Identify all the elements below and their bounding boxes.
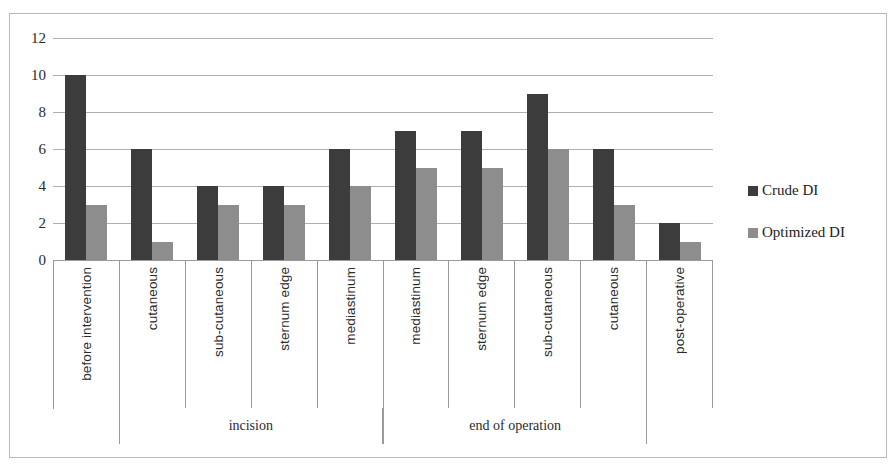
bar-groups <box>53 38 713 260</box>
y-axis-tick-label: 8 <box>39 104 47 121</box>
legend-item: Optimized DI <box>748 224 845 241</box>
bar <box>131 149 152 260</box>
category-label-cell: cutaneous <box>581 261 647 408</box>
bar-group <box>185 38 251 260</box>
bar <box>527 94 548 261</box>
category-label-cell: sub-cutaneous <box>186 261 252 408</box>
category-label-cell: before intervention <box>53 261 120 409</box>
bar <box>548 149 569 260</box>
bar-group <box>647 38 713 260</box>
category-label: sub-cutaneous <box>540 267 555 357</box>
y-axis-tick-label: 2 <box>39 215 47 232</box>
bar <box>461 131 482 261</box>
y-axis-tick-label: 10 <box>31 67 46 84</box>
bar <box>197 186 218 260</box>
bar-group <box>581 38 647 260</box>
bar <box>416 168 437 261</box>
bar <box>263 186 284 260</box>
category-label-cell: sternum edge <box>252 261 318 408</box>
bar <box>152 242 173 261</box>
bar <box>659 223 680 260</box>
category-label: mediastinum <box>408 267 423 345</box>
category-label: cutaneous <box>606 267 621 330</box>
bar-group <box>119 38 185 260</box>
bar <box>350 186 371 260</box>
bar <box>218 205 239 261</box>
category-label-cell: sub-cutaneous <box>515 261 581 408</box>
bar <box>65 75 86 260</box>
category-label: mediastinum <box>343 267 358 345</box>
bar <box>395 131 416 261</box>
bar-group <box>449 38 515 260</box>
bar-group <box>383 38 449 260</box>
category-label-cell: mediastinum <box>318 261 384 408</box>
chart-legend: Crude DIOptimized DI <box>748 182 845 241</box>
category-label-cell: mediastinum <box>384 261 450 408</box>
y-axis-tick-label: 6 <box>39 141 47 158</box>
category-label-cell: sternum edge <box>449 261 515 408</box>
group-spacer <box>647 408 713 444</box>
group-spacer <box>53 408 119 444</box>
bar-group <box>251 38 317 260</box>
legend-swatch-icon <box>748 228 758 238</box>
group-label: incision <box>119 408 383 444</box>
legend-label: Crude DI <box>762 182 818 199</box>
category-group-labels: incisionend of operation <box>53 408 713 444</box>
bar-group <box>515 38 581 260</box>
category-label: post-operative <box>672 267 687 354</box>
category-label: sternum edge <box>277 267 292 351</box>
bar-group <box>53 38 119 260</box>
bar <box>329 149 350 260</box>
category-labels: before interventioncutaneoussub-cutaneou… <box>53 260 713 408</box>
category-label: sub-cutaneous <box>211 267 226 357</box>
bar <box>593 149 614 260</box>
y-axis-tick-label: 4 <box>39 178 47 195</box>
plot-area: 024681012 <box>53 38 713 260</box>
y-axis-tick-label: 0 <box>39 252 47 269</box>
legend-label: Optimized DI <box>762 224 845 241</box>
category-label-cell: cutaneous <box>120 261 186 408</box>
bar-group <box>317 38 383 260</box>
chart-frame: 024681012 before interventioncutaneoussu… <box>9 13 887 458</box>
group-label: end of operation <box>383 408 647 444</box>
y-axis-tick-label: 12 <box>31 30 46 47</box>
category-label-cell: post-operative <box>647 261 713 408</box>
bar <box>614 205 635 261</box>
legend-swatch-icon <box>748 186 758 196</box>
bar <box>86 205 107 261</box>
category-label: sternum edge <box>474 267 489 351</box>
bar <box>284 205 305 261</box>
bar <box>680 242 701 261</box>
legend-item: Crude DI <box>748 182 845 199</box>
category-label: cutaneous <box>145 267 160 330</box>
bar <box>482 168 503 261</box>
category-label: before intervention <box>79 267 94 381</box>
